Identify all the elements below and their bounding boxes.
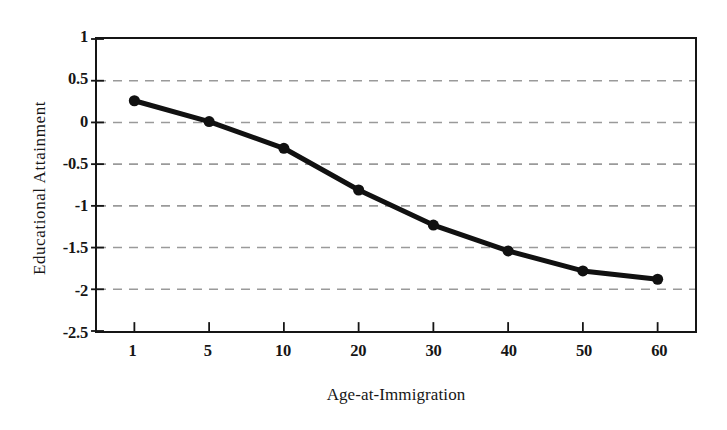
y-axis-tick-label: -2.5 bbox=[44, 323, 88, 343]
x-axis-title: Age-at-Immigration bbox=[95, 385, 697, 405]
x-axis-tick-label: 60 bbox=[651, 341, 667, 361]
y-axis-tick-label: -0.5 bbox=[44, 154, 88, 174]
x-axis-tick-label: 40 bbox=[501, 341, 517, 361]
y-axis-tick-label: 0 bbox=[44, 112, 88, 132]
x-axis-tick-label: 5 bbox=[204, 341, 212, 361]
x-axis-tick-label: 30 bbox=[426, 341, 442, 361]
data-series-line bbox=[97, 39, 695, 331]
y-axis-tick-label: -1 bbox=[44, 196, 88, 216]
x-axis-tick-label: 20 bbox=[350, 341, 366, 361]
x-axis-tick-label: 10 bbox=[275, 341, 291, 361]
y-axis-tick-label: -2 bbox=[44, 281, 88, 301]
y-axis-tick-label: 1 bbox=[44, 27, 88, 47]
y-axis-tick-label: -1.5 bbox=[44, 238, 88, 258]
x-axis-tick-label: 50 bbox=[576, 341, 592, 361]
x-axis-tick-label: 1 bbox=[129, 341, 137, 361]
x-axis-tick-labels: 15102030405060 bbox=[95, 341, 697, 367]
y-axis-tick-labels: 10.50-0.5-1-1.5-2-2.5 bbox=[36, 37, 88, 333]
y-axis-tick-label: 0.5 bbox=[44, 69, 88, 89]
chart-figure: Educational Attainment 10.50-0.5-1-1.5-2… bbox=[0, 0, 727, 430]
plot-area bbox=[95, 37, 697, 333]
